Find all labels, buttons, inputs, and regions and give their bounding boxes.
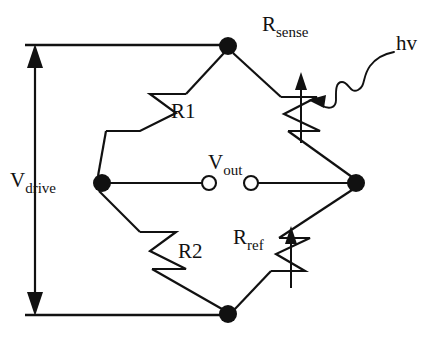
photon-wavy-path — [321, 52, 394, 108]
label-r1: R1 — [171, 101, 196, 122]
label-r-sense: Rsense — [262, 14, 309, 35]
label-r-ref-sub: ref — [247, 237, 264, 253]
label-v-drive-base: V — [10, 168, 25, 192]
label-v-out-base: V — [208, 150, 223, 174]
rsense-variable-arrowhead — [295, 72, 307, 90]
node-bottom — [219, 305, 237, 323]
label-r-ref-base: R — [233, 225, 247, 249]
node-left — [93, 174, 111, 192]
label-r-ref: Rref — [233, 227, 264, 248]
wire-left-to-r2 — [99, 191, 140, 232]
vdrive-arrowhead-up — [27, 44, 43, 68]
vout-terminal-right — [244, 176, 258, 190]
node-top — [219, 37, 237, 55]
label-r-sense-base: R — [262, 12, 276, 36]
label-hv: hv — [396, 33, 417, 54]
circuit-diagram: Rsense hv R1 R2 Rref Vout Vdrive — [0, 0, 443, 338]
wire-rsense-to-right — [288, 131, 352, 177]
label-v-out: Vout — [208, 152, 242, 173]
label-r2: R2 — [178, 241, 203, 262]
vout-terminal-left — [202, 176, 216, 190]
label-v-out-sub: out — [223, 162, 242, 178]
wire-bottom-to-rref — [234, 271, 271, 310]
label-r2-base: R2 — [178, 239, 203, 263]
wire-top-to-r1 — [186, 53, 224, 94]
label-r-sense-sub: sense — [276, 24, 309, 40]
vdrive-arrowhead-down — [27, 292, 43, 316]
rref-variable-arrowhead — [285, 226, 297, 244]
label-hv-base: hv — [396, 31, 417, 55]
wire-r2-to-bottom — [152, 269, 222, 309]
label-v-drive-sub: drive — [25, 180, 56, 196]
label-v-drive: Vdrive — [10, 170, 56, 191]
label-r1-base: R1 — [171, 99, 196, 123]
wire-r1-to-left — [98, 131, 106, 176]
node-right — [347, 174, 365, 192]
wire-top-to-rsense — [233, 53, 281, 97]
